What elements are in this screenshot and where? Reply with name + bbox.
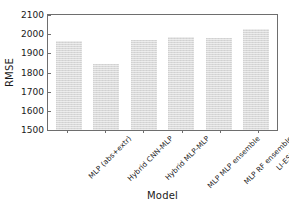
bar [243,29,269,130]
x-axis-tick-mark [105,130,106,133]
bar [206,38,232,130]
y-axis-tick-label: 2000 [21,29,48,39]
x-axis-tick-mark [258,130,259,133]
y-axis-tick-label: 1800 [21,68,48,78]
bar [56,41,82,131]
bar [168,37,194,130]
x-axis-tick-mark [143,130,144,133]
y-axis-tick-label: 1900 [21,48,48,58]
bar-series [48,15,277,130]
x-axis-title: Model [47,190,278,201]
y-axis-tick-label: 1500 [21,125,48,135]
bar [93,64,119,130]
y-axis-title: RMSE [2,5,18,140]
y-axis-tick-label: 2100 [21,10,48,20]
y-axis-tick-label: 1600 [21,106,48,116]
bar-chart-figure: RMSE 1500160017001800190020002100 Model … [0,0,289,212]
x-axis-tick-mark [67,130,68,133]
x-axis-tick-mark [182,130,183,133]
bar [131,40,157,130]
x-axis-tick-mark [220,130,221,133]
y-axis-tick-label: 1700 [21,87,48,97]
x-axis-tick-label: MLP MLP ensemble [205,134,261,190]
plot-area: 1500160017001800190020002100 [47,14,278,131]
x-axis-tick-label: MLP (abs+extr) [87,134,134,181]
